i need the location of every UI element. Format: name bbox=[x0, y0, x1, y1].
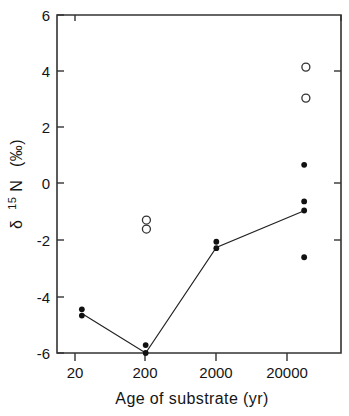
y-tick-label: -2 bbox=[37, 232, 50, 249]
y-tick-label: 6 bbox=[42, 7, 50, 24]
scatter-plot: 6 4 2 0 -2 -4 -6 20 200 2000 20000 Age o… bbox=[0, 0, 349, 416]
data-point-filled bbox=[79, 313, 85, 319]
x-tick-label: 20000 bbox=[266, 364, 308, 381]
chart-figure: 6 4 2 0 -2 -4 -6 20 200 2000 20000 Age o… bbox=[0, 0, 349, 416]
y-axis-title-element: N bbox=[8, 180, 25, 192]
data-point-filled bbox=[301, 199, 307, 205]
data-point-open bbox=[142, 225, 150, 233]
y-tick-labels: 6 4 2 0 -2 -4 -6 bbox=[37, 7, 50, 362]
x-tick-label: 20 bbox=[67, 364, 84, 381]
right-axis-ticks bbox=[334, 71, 341, 240]
data-point-filled bbox=[79, 306, 85, 312]
y-tick-label: -4 bbox=[37, 289, 50, 306]
data-point-open bbox=[142, 216, 150, 224]
y-tick-label: 0 bbox=[42, 175, 50, 192]
top-axis-ticks bbox=[75, 15, 341, 21]
data-point-open bbox=[302, 94, 310, 102]
data-point-filled bbox=[213, 239, 219, 245]
data-point-open bbox=[302, 63, 310, 71]
y-axis-title-units: (‰) bbox=[8, 139, 25, 167]
data-point-filled bbox=[301, 208, 307, 214]
data-point-filled bbox=[213, 245, 219, 251]
y-axis-title-delta: δ bbox=[8, 220, 25, 229]
mean-trend-line bbox=[82, 211, 304, 353]
y-axis-ticks bbox=[57, 15, 64, 353]
data-point-filled bbox=[301, 254, 307, 260]
data-point-layer bbox=[79, 63, 310, 356]
y-tick-label: -6 bbox=[37, 345, 50, 362]
data-point-filled bbox=[143, 350, 149, 356]
data-point-filled bbox=[143, 342, 149, 348]
y-tick-label: 4 bbox=[42, 63, 50, 80]
x-axis-ticks bbox=[75, 353, 287, 361]
plot-frame bbox=[57, 15, 341, 353]
x-tick-label: 200 bbox=[132, 364, 157, 381]
svg-text:δ 15 N: δ 15 N (‰) bbox=[2, 139, 25, 229]
x-tick-label: 2000 bbox=[199, 364, 232, 381]
y-axis-title-isotope: 15 bbox=[6, 197, 18, 210]
x-tick-labels: 20 200 2000 20000 bbox=[67, 364, 308, 381]
y-tick-label: 2 bbox=[42, 119, 50, 136]
data-point-filled bbox=[301, 162, 307, 168]
y-axis-title: δ 15 N (‰) bbox=[2, 139, 25, 229]
x-axis-title: Age of substrate (yr) bbox=[115, 390, 268, 407]
